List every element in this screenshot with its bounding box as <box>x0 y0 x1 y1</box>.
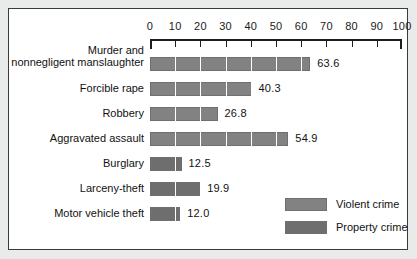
x-axis-tick <box>150 41 152 49</box>
bar-fill <box>150 57 310 71</box>
legend-item: Violent crime <box>285 195 408 213</box>
x-axis-tick <box>200 41 201 47</box>
bar <box>150 157 182 171</box>
bar-value-label: 19.9 <box>207 182 229 194</box>
legend-label: Property crime <box>336 221 408 233</box>
chart-legend: Violent crimeProperty crime <box>285 195 408 241</box>
chart-figure: 0102030405060708090100 Murder andnonnegl… <box>8 8 408 250</box>
bar-segment-divider <box>226 132 227 146</box>
bar <box>150 207 180 221</box>
bar-value-label: 26.8 <box>225 107 247 119</box>
x-axis-tick <box>377 41 378 47</box>
bar-fill <box>150 132 288 146</box>
bar-row: Robbery26.8 <box>9 106 407 122</box>
x-axis-tick-label: 70 <box>320 20 333 32</box>
bar <box>150 107 218 121</box>
bar-segment-divider <box>200 82 201 96</box>
bar-fill <box>150 157 182 171</box>
bar-row: Burglary12.5 <box>9 156 407 172</box>
x-axis-tick-label: 80 <box>345 20 358 32</box>
bar-segment-divider <box>276 132 277 146</box>
bar-segment-divider <box>251 82 252 96</box>
bar-category-label: Forcible rape <box>0 82 144 94</box>
bar-segment-divider <box>175 57 176 71</box>
bar-segment-divider <box>200 132 201 146</box>
chart-plot-area: 0102030405060708090100 Murder andnonnegl… <box>9 9 407 249</box>
x-axis-tick <box>175 41 176 47</box>
x-axis-tick <box>352 41 353 47</box>
x-axis-tick <box>251 41 252 47</box>
bar-value-label: 12.0 <box>187 207 209 219</box>
bar <box>150 82 252 96</box>
bar-segment-divider <box>175 107 176 121</box>
legend-item: Property crime <box>285 218 408 236</box>
bar <box>150 57 310 71</box>
bar-category-label: Aggravated assault <box>0 132 144 144</box>
bar-segment-divider <box>226 82 227 96</box>
legend-swatch <box>285 221 327 234</box>
x-axis-tick <box>326 41 327 47</box>
x-axis-tick-label: 100 <box>393 20 412 32</box>
x-axis-tick <box>276 41 277 47</box>
bar-fill <box>150 107 218 121</box>
bar-value-label: 54.9 <box>295 132 317 144</box>
bar-category-label: Motor vehicle theft <box>0 207 144 219</box>
x-axis-tick-label: 50 <box>270 20 283 32</box>
bar <box>150 182 200 196</box>
x-axis-tick-label: 20 <box>194 20 207 32</box>
legend-swatch <box>285 198 327 211</box>
bar-segment-divider <box>200 57 201 71</box>
bar-row: Aggravated assault54.9 <box>9 131 407 147</box>
bar-segment-divider <box>175 132 176 146</box>
bar-value-label: 12.5 <box>189 157 211 169</box>
bar-segment-divider <box>276 57 277 71</box>
bar-value-label: 63.6 <box>317 57 339 69</box>
bar-segment-divider <box>200 107 201 121</box>
x-axis-tick-label: 60 <box>295 20 308 32</box>
x-axis-tick <box>400 41 402 49</box>
x-axis-tick-label: 10 <box>169 20 182 32</box>
bar <box>150 132 288 146</box>
x-axis-tick-label: 40 <box>244 20 257 32</box>
legend-label: Violent crime <box>336 198 399 210</box>
bar-row: Forcible rape40.3 <box>9 81 407 97</box>
bar-segment-divider <box>251 132 252 146</box>
bar-segment-divider <box>226 57 227 71</box>
bar-segment-divider <box>251 57 252 71</box>
bar-row: Murder andnonnegligent manslaughter63.6 <box>9 56 407 72</box>
bar-segment-divider <box>175 207 176 221</box>
bar-segment-divider <box>175 82 176 96</box>
bar-category-label: Murder andnonnegligent manslaughter <box>0 44 144 68</box>
x-axis-tick <box>226 41 227 47</box>
bar-segment-divider <box>301 57 302 71</box>
x-axis-tick-label: 0 <box>147 20 153 32</box>
x-axis-tick <box>301 41 302 47</box>
bar-value-label: 40.3 <box>259 82 281 94</box>
bar-category-label: Robbery <box>0 107 144 119</box>
bar-segment-divider <box>175 182 176 196</box>
bar-category-label: Burglary <box>0 157 144 169</box>
bar-segment-divider <box>175 157 176 171</box>
x-axis-tick-label: 30 <box>219 20 232 32</box>
x-axis-tick-label: 90 <box>370 20 383 32</box>
bar-category-label: Larceny-theft <box>0 182 144 194</box>
